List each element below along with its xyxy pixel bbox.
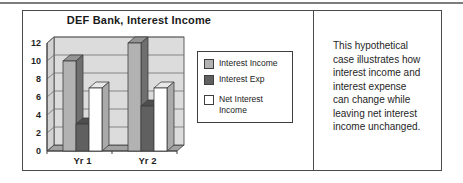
bar-1-1 <box>141 106 154 151</box>
caption-line: interest income and <box>333 66 435 80</box>
top-rule <box>0 2 463 4</box>
legend-swatch-net-interest-income <box>204 95 214 105</box>
legend-item-interest-income: Interest Income <box>204 58 287 69</box>
legend-item-interest-exp: Interest Exp <box>204 74 287 85</box>
legend-swatch-interest-income <box>204 59 214 69</box>
caption-line: can change while <box>333 93 435 107</box>
legend-label: Net Interest Income <box>219 94 285 116</box>
y-tick-label: 4 <box>36 110 41 120</box>
x-category-label: Yr 1 <box>74 155 93 166</box>
y-tick-label: 2 <box>36 128 41 138</box>
bar-side-2-1 <box>167 82 174 151</box>
legend-label: Interest Income <box>219 58 285 69</box>
bar-side-2-0 <box>102 82 109 151</box>
y-tick-label: 8 <box>36 74 41 84</box>
y-tick-label: 6 <box>36 92 41 102</box>
caption-line: income unchanged. <box>333 120 435 134</box>
caption-line: interest expense <box>333 80 435 94</box>
bar-2-0 <box>89 88 102 151</box>
caption-panel: This hypotheticalcase illustrates howint… <box>314 11 441 170</box>
figure-frame: DEF Bank, Interest Income 024681012Yr 1Y… <box>22 10 442 171</box>
figure-canvas: DEF Bank, Interest Income 024681012Yr 1Y… <box>0 0 463 183</box>
x-category-label: Yr 2 <box>139 155 157 166</box>
caption-line: This hypothetical <box>333 39 435 53</box>
legend-item-net-interest-income: Net Interest Income <box>204 94 287 116</box>
caption-text: This hypotheticalcase illustrates howint… <box>333 39 435 134</box>
bar-0-0 <box>63 61 76 151</box>
y-tick-label: 12 <box>31 38 41 48</box>
legend-swatch-interest-exp <box>204 75 214 85</box>
chart-panel: DEF Bank, Interest Income 024681012Yr 1Y… <box>23 11 314 170</box>
y-tick-label: 10 <box>31 56 41 66</box>
caption-line: leaving net interest <box>333 107 435 121</box>
y-tick-label: 0 <box>36 146 41 156</box>
bar-2-1 <box>154 88 167 151</box>
legend-label: Interest Exp <box>219 74 285 85</box>
chart-legend: Interest Income Interest Exp Net Interes… <box>197 51 293 123</box>
bar-0-1 <box>128 43 141 151</box>
caption-line: case illustrates how <box>333 53 435 67</box>
bar-1-0 <box>76 124 89 151</box>
